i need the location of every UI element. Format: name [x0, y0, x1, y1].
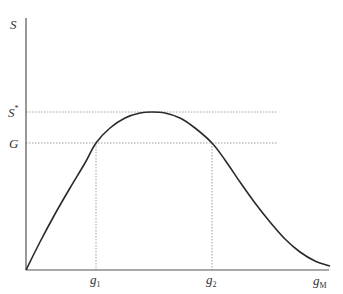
chart: S S* G g1 g2 gM	[0, 0, 343, 294]
g1-tick-label: g1	[90, 272, 101, 289]
y-axis-label: S	[10, 17, 17, 32]
g2-tick-label: g2	[206, 272, 217, 289]
reference-lines	[26, 112, 278, 270]
x-axis-label: gM	[313, 273, 327, 290]
s-star-label: S*	[8, 104, 19, 120]
g-level-label: G	[9, 136, 19, 151]
curve-line	[26, 112, 330, 270]
